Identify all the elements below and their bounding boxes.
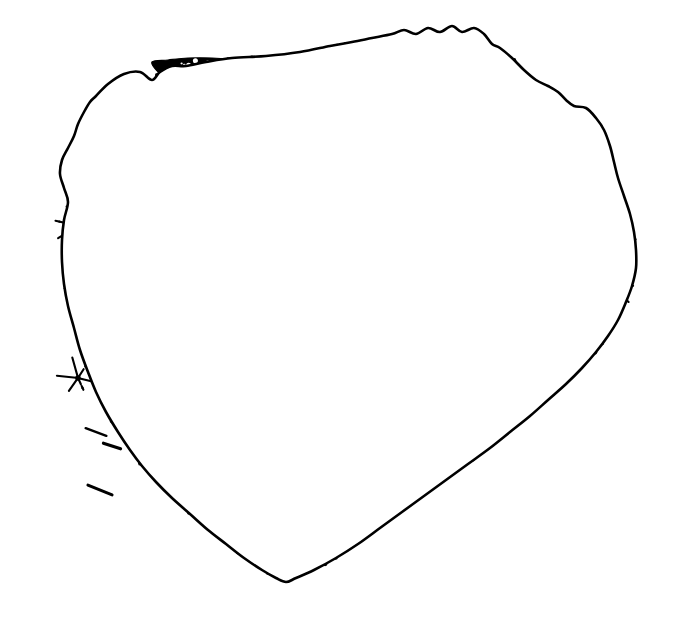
fossil-shell-drawing	[0, 0, 676, 618]
illustration-canvas: Fossil shell fragment line drawing bival…	[0, 0, 676, 618]
